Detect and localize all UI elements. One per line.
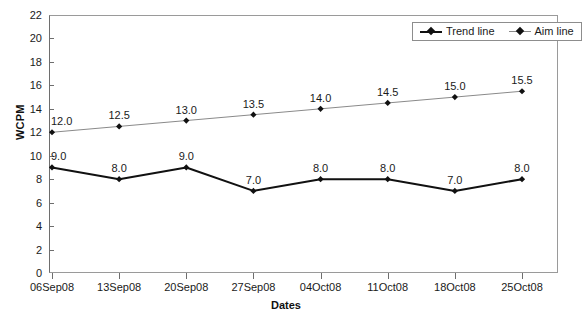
data-point-marker: [519, 176, 525, 182]
y-tick-label: 4: [20, 221, 42, 232]
data-label: 8.0: [368, 163, 408, 174]
data-label: 12.5: [99, 110, 139, 121]
data-label: 7.0: [233, 175, 273, 186]
x-tick-mark: [522, 273, 523, 279]
y-tick-label: 18: [20, 57, 42, 68]
x-tick-label: 13Sep08: [84, 282, 154, 293]
x-tick-mark: [186, 273, 187, 279]
data-label: 9.0: [166, 151, 206, 162]
data-point-marker: [183, 164, 189, 170]
y-tick-label: 10: [20, 151, 42, 162]
y-tick-label: 20: [20, 33, 42, 44]
data-point-marker: [49, 164, 55, 170]
chart-legend: Trend line Aim line: [412, 22, 582, 41]
y-tick-label: 2: [20, 245, 42, 256]
data-point-marker: [317, 176, 323, 182]
data-point-marker: [519, 88, 525, 94]
x-tick-mark: [455, 273, 456, 279]
trend-line-key-icon: [420, 27, 442, 36]
data-label: 7.0: [435, 175, 475, 186]
data-point-marker: [49, 129, 55, 135]
data-label: 14.0: [301, 93, 341, 104]
aim-line-key-icon: [509, 27, 531, 36]
x-tick-mark: [321, 273, 322, 279]
data-label: 13.0: [166, 105, 206, 116]
x-tick-label: 27Sep08: [218, 282, 288, 293]
data-point-marker: [183, 117, 189, 123]
legend-item-aim-line[interactable]: Aim line: [509, 26, 574, 37]
data-point-marker: [116, 176, 122, 182]
x-tick-mark: [52, 273, 53, 279]
x-tick-label: 25Oct08: [487, 282, 557, 293]
data-point-marker: [250, 188, 256, 194]
data-label: 15.0: [435, 81, 475, 92]
x-tick-label: 20Sep08: [151, 282, 221, 293]
data-point-marker: [385, 176, 391, 182]
y-tick-label: 6: [20, 198, 42, 209]
data-label: 8.0: [99, 163, 139, 174]
x-tick-mark: [253, 273, 254, 279]
x-tick-label: 11Oct08: [353, 282, 423, 293]
data-point-marker: [385, 100, 391, 106]
x-tick-mark: [388, 273, 389, 279]
data-label: 13.5: [233, 99, 273, 110]
data-label: 12.0: [51, 116, 91, 127]
data-label: 14.5: [368, 87, 408, 98]
data-point-marker: [452, 94, 458, 100]
series-plot: [49, 15, 558, 273]
data-label: 8.0: [301, 163, 341, 174]
data-point-marker: [317, 106, 323, 112]
x-tick-label: 04Oct08: [286, 282, 356, 293]
y-axis-title: WCPM: [14, 104, 26, 140]
legend-label-aim-line: Aim line: [535, 26, 574, 37]
y-tick-label: 22: [20, 10, 42, 21]
x-axis-title: Dates: [0, 299, 572, 311]
data-label: 15.5: [502, 75, 542, 86]
y-tick-label: 16: [20, 80, 42, 91]
legend-item-trend-line[interactable]: Trend line: [420, 26, 495, 37]
y-tick-label: 8: [20, 174, 42, 185]
data-label: 8.0: [502, 163, 542, 174]
data-point-marker: [116, 123, 122, 129]
data-label: 9.0: [51, 151, 91, 162]
data-point-marker: [250, 112, 256, 118]
y-tick-label: 0: [20, 268, 42, 279]
data-point-marker: [452, 188, 458, 194]
x-tick-label: 18Oct08: [420, 282, 490, 293]
x-tick-label: 06Sep08: [17, 282, 87, 293]
x-tick-mark: [119, 273, 120, 279]
legend-label-trend-line: Trend line: [446, 26, 495, 37]
